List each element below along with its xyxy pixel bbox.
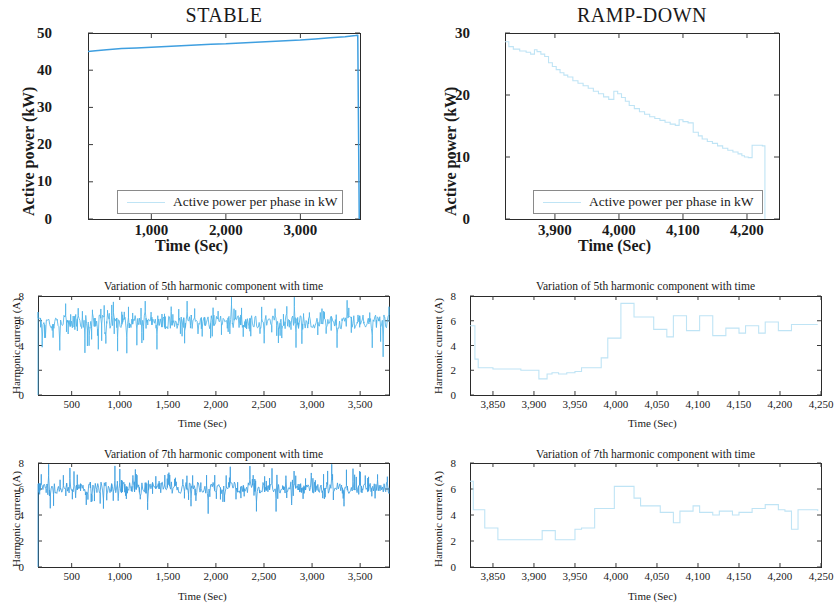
ytick-label: 10 bbox=[37, 173, 52, 190]
xtick-label: 3,950 bbox=[563, 570, 588, 582]
xtick-label: 1,500 bbox=[155, 570, 180, 582]
ytick-label: 4 bbox=[19, 509, 25, 521]
xtick-label: 3,500 bbox=[348, 570, 373, 582]
ytick-label: 6 bbox=[451, 315, 457, 327]
legend-label-active-power: Active power per phase in kW bbox=[173, 194, 338, 210]
legend-label-active-power: Active power per phase in kW bbox=[589, 194, 754, 210]
xtick-label: 4,150 bbox=[727, 398, 752, 410]
ytick-label: 10 bbox=[455, 149, 470, 166]
xtick-label: 4,250 bbox=[809, 398, 834, 410]
ytick-label: 2 bbox=[19, 535, 25, 547]
legend-rampdown-active-power: Active power per phase in kW bbox=[533, 190, 763, 214]
ytick-label: 0 bbox=[451, 561, 457, 573]
panel-stable-active-power: STABLE Active power (kW) Time (Sec) Acti… bbox=[0, 0, 420, 260]
xtick-label: 4,050 bbox=[645, 398, 670, 410]
xtick-label: 3,950 bbox=[563, 398, 588, 410]
xtick-label: 1,000 bbox=[134, 222, 168, 239]
xtick-label: 2,000 bbox=[204, 570, 229, 582]
xtick-label: 3,000 bbox=[284, 222, 318, 239]
xtick-label: 3,000 bbox=[300, 570, 325, 582]
ytick-label: 8 bbox=[19, 290, 25, 302]
ytick-label: 8 bbox=[19, 457, 25, 469]
ytick-label: 30 bbox=[37, 99, 52, 116]
legend-swatch-icon bbox=[127, 202, 165, 203]
xtick-label: 2,000 bbox=[204, 398, 229, 410]
xtick-label: 1,000 bbox=[107, 570, 132, 582]
xtick-label: 500 bbox=[63, 570, 80, 582]
ytick-label: 6 bbox=[451, 483, 457, 495]
xtick-label: 3,500 bbox=[348, 398, 373, 410]
ytick-label: 50 bbox=[37, 25, 52, 42]
plot-area-stable-active-power bbox=[0, 0, 420, 260]
ytick-label: 20 bbox=[37, 136, 52, 153]
panel-rampdown-5th-harmonic: Variation of 5th harmonic component with… bbox=[420, 260, 839, 435]
xtick-label: 4,100 bbox=[686, 570, 711, 582]
ytick-label: 40 bbox=[37, 62, 52, 79]
plot-area-rampdown-active-power bbox=[420, 0, 839, 260]
legend-swatch-icon bbox=[543, 202, 581, 203]
xtick-label: 4,200 bbox=[768, 398, 793, 410]
xtick-label: 4,200 bbox=[768, 570, 793, 582]
xtick-label: 4,100 bbox=[666, 222, 700, 239]
ytick-label: 2 bbox=[451, 535, 457, 547]
panel-stable-5th-harmonic: Variation of 5th harmonic component with… bbox=[0, 260, 420, 435]
xtick-label: 4,100 bbox=[686, 398, 711, 410]
ytick-label: 0 bbox=[451, 389, 457, 401]
xtick-label: 3,900 bbox=[522, 570, 547, 582]
ytick-label: 0 bbox=[19, 561, 25, 573]
ytick-label: 0 bbox=[19, 389, 25, 401]
ytick-label: 2 bbox=[451, 364, 457, 376]
xtick-label: 3,900 bbox=[522, 398, 547, 410]
xtick-label: 2,500 bbox=[252, 398, 277, 410]
ytick-label: 8 bbox=[451, 457, 457, 469]
ytick-label: 6 bbox=[19, 483, 25, 495]
xtick-label: 4,250 bbox=[809, 570, 834, 582]
xtick-label: 3,850 bbox=[481, 570, 506, 582]
ytick-label: 0 bbox=[45, 211, 53, 228]
xtick-label: 2,500 bbox=[252, 570, 277, 582]
xtick-label: 2,000 bbox=[209, 222, 243, 239]
ytick-label: 0 bbox=[463, 211, 471, 228]
ytick-label: 4 bbox=[19, 340, 25, 352]
ytick-label: 6 bbox=[19, 315, 25, 327]
ytick-label: 2 bbox=[19, 364, 25, 376]
xtick-label: 500 bbox=[63, 398, 80, 410]
xtick-label: 1,500 bbox=[155, 398, 180, 410]
xtick-label: 1,000 bbox=[107, 398, 132, 410]
ytick-label: 20 bbox=[455, 87, 470, 104]
xtick-label: 4,000 bbox=[604, 398, 629, 410]
xtick-label: 4,150 bbox=[727, 570, 752, 582]
panel-stable-7th-harmonic: Variation of 7th harmonic component with… bbox=[0, 430, 420, 608]
xtick-label: 3,000 bbox=[300, 398, 325, 410]
xtick-label: 3,850 bbox=[481, 398, 506, 410]
xtick-label: 3,900 bbox=[538, 222, 572, 239]
ytick-label: 30 bbox=[455, 25, 470, 42]
legend-stable-active-power: Active power per phase in kW bbox=[117, 190, 343, 214]
ytick-label: 4 bbox=[451, 509, 457, 521]
xtick-label: 4,050 bbox=[645, 570, 670, 582]
xtick-label: 4,200 bbox=[730, 222, 764, 239]
xtick-label: 4,000 bbox=[602, 222, 636, 239]
ytick-label: 4 bbox=[451, 340, 457, 352]
panel-rampdown-active-power: RAMP-DOWN Active power (kW) Time (Sec) A… bbox=[420, 0, 839, 260]
panel-rampdown-7th-harmonic: Variation of 7th harmonic component with… bbox=[420, 430, 839, 608]
xtick-label: 4,000 bbox=[604, 570, 629, 582]
ytick-label: 8 bbox=[451, 290, 457, 302]
